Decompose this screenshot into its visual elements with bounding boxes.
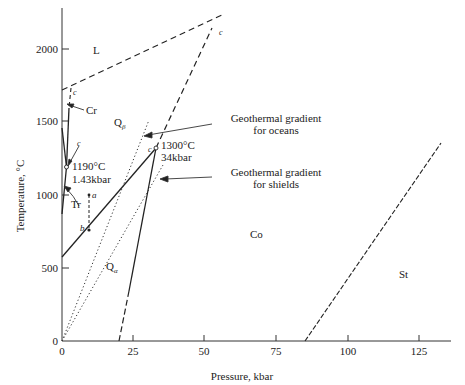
triple2-pressure: 34kbar — [161, 151, 192, 163]
points — [65, 146, 159, 232]
field-labels: L Cr Qβ Tr Qα Co St — [71, 44, 408, 280]
x-tick-100: 100 — [340, 345, 357, 357]
field-L: L — [93, 44, 100, 56]
label-c-top: c — [219, 28, 223, 37]
geotherm-labels: Geothermal gradient for oceans Geotherma… — [231, 112, 322, 190]
triple1-pressure: 1.43kbar — [72, 173, 111, 185]
x-tick-50: 50 — [199, 345, 211, 357]
x-tick-125: 125 — [411, 345, 428, 357]
liquidus-line — [62, 15, 222, 90]
label-c-cr: c — [77, 139, 81, 148]
oceans-label-line1: Geothermal gradient — [231, 112, 322, 124]
oceans-label-line2: for oceans — [253, 124, 299, 136]
label-c-liquidus: c — [73, 88, 77, 97]
field-Qbeta: Qβ — [114, 116, 126, 131]
point-a — [88, 194, 91, 197]
phase-diagram: 0 500 1000 1500 2000 0 25 50 75 100 125 … — [0, 0, 465, 385]
label-b: b — [80, 223, 85, 233]
arrow-oceans-icon — [144, 132, 152, 138]
arrow-cr-icon — [67, 104, 74, 108]
field-Tr: Tr — [71, 198, 81, 210]
triple-point-1300 — [154, 146, 158, 150]
x-tick-labels: 0 25 50 75 100 125 — [59, 345, 428, 357]
field-St: St — [399, 268, 408, 280]
shields-label-line2: for shields — [253, 178, 299, 190]
y-tick-0: 0 — [53, 335, 59, 347]
quartz-coesite-line — [129, 148, 156, 291]
x-tick-0: 0 — [59, 345, 65, 357]
field-Qalpha: Qα — [106, 260, 118, 275]
arrow-shields-icon — [160, 176, 168, 182]
triple2-temp: 1300°C — [161, 139, 195, 151]
y-tick-labels: 0 500 1000 1500 2000 — [36, 43, 59, 347]
point-b — [87, 228, 90, 231]
x-tick-75: 75 — [271, 345, 283, 357]
triple1-temp: 1190°C — [72, 160, 105, 172]
x-axis-title: Pressure, kbar — [211, 370, 274, 382]
tridymite-quartz-line — [62, 167, 67, 214]
field-Co: Co — [250, 228, 263, 240]
coesite-stishovite-line — [305, 143, 441, 341]
y-tick-500: 500 — [42, 262, 59, 274]
field-Cr: Cr — [86, 104, 97, 116]
label-c-1300: c — [148, 145, 152, 154]
label-a: a — [92, 190, 97, 200]
quartz-coesite-lower-line — [119, 291, 129, 341]
x-tick-25: 25 — [128, 345, 140, 357]
coesite-liquid-line — [156, 28, 212, 148]
point-annotations: 1190°C 1.43kbar 1300°C 34kbar a b c c c … — [72, 28, 223, 233]
y-axis-title: Temperature, °C — [14, 160, 26, 233]
y-tick-1000: 1000 — [36, 189, 59, 201]
phase-boundaries — [62, 15, 441, 341]
shields-label-line1: Geothermal gradient — [231, 166, 322, 178]
y-tick-1500: 1500 — [36, 115, 59, 127]
cristobalite-quartz-line — [67, 108, 70, 167]
tridymite-cristobalite-line — [62, 128, 67, 167]
y-tick-2000: 2000 — [36, 43, 59, 55]
